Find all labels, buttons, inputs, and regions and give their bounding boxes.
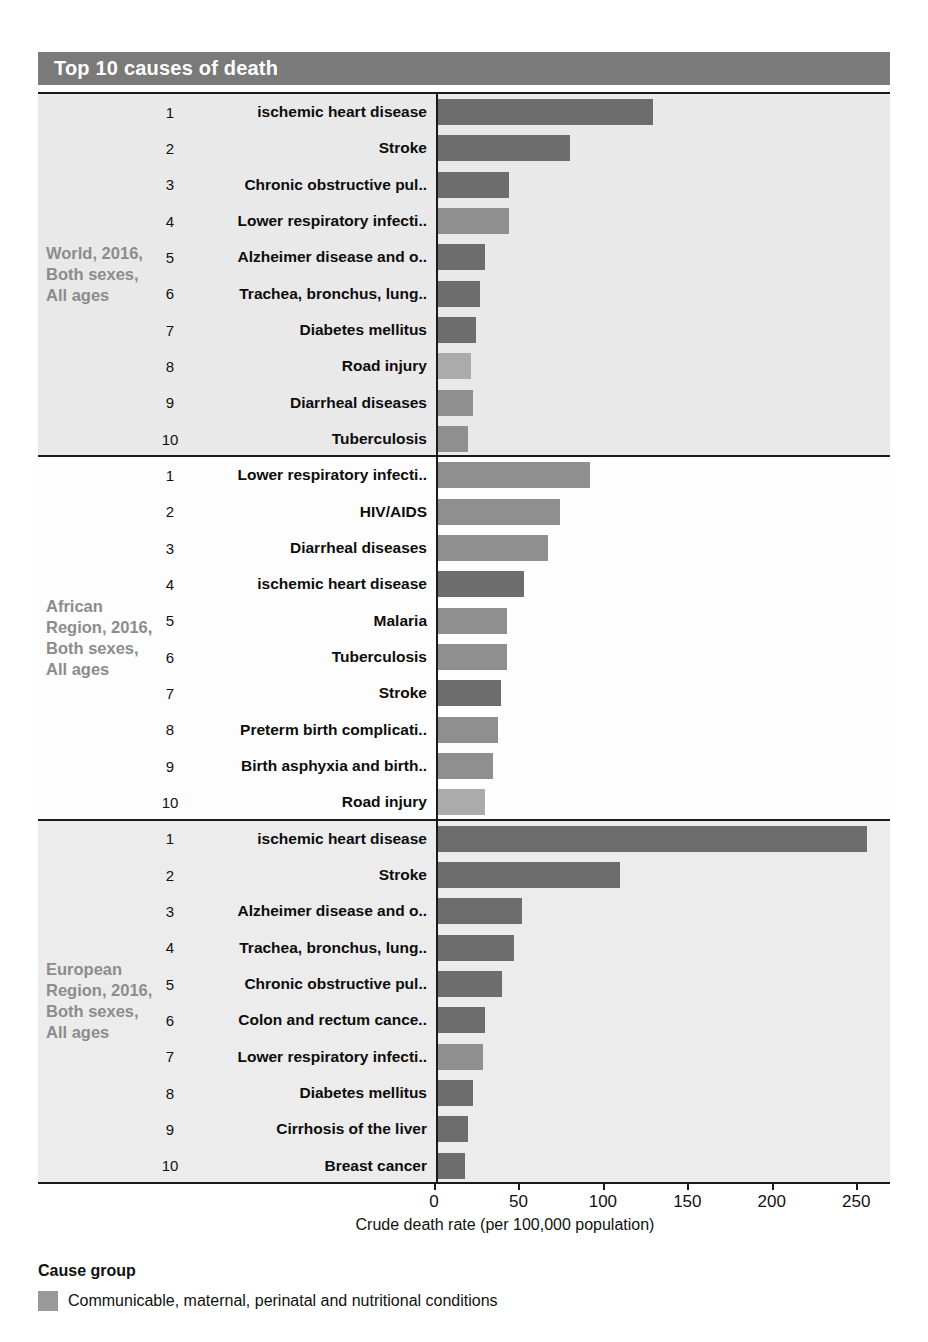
rank-number: 6 xyxy=(154,285,186,302)
chart-row[interactable]: 4Lower respiratory infecti.. xyxy=(154,203,890,239)
rank-number: 1 xyxy=(154,104,186,121)
bar[interactable] xyxy=(438,935,514,961)
rank-number: 4 xyxy=(154,939,186,956)
rank-number: 4 xyxy=(154,576,186,593)
chart-row[interactable]: 10Road injury xyxy=(154,784,890,820)
rank-number: 7 xyxy=(154,685,186,702)
bar[interactable] xyxy=(438,717,498,743)
bar[interactable] xyxy=(438,1044,483,1070)
chart-row[interactable]: 9Cirrhosis of the liver xyxy=(154,1111,890,1147)
chart-row[interactable]: 8Road injury xyxy=(154,348,890,384)
chart-row[interactable]: 6Tuberculosis xyxy=(154,639,890,675)
bar[interactable] xyxy=(438,208,509,234)
bar-track xyxy=(436,1111,890,1147)
cause-label: Lower respiratory infecti.. xyxy=(186,212,436,230)
bar[interactable] xyxy=(438,1007,485,1033)
cause-label: Trachea, bronchus, lung.. xyxy=(186,285,436,303)
chart-row[interactable]: 1ischemic heart disease xyxy=(154,94,890,130)
bar[interactable] xyxy=(438,535,548,561)
chart-row[interactable]: 3Chronic obstructive pul.. xyxy=(154,167,890,203)
bar[interactable] xyxy=(438,426,468,452)
rank-number: 6 xyxy=(154,649,186,666)
bar[interactable] xyxy=(438,1080,473,1106)
rank-number: 2 xyxy=(154,867,186,884)
bar[interactable] xyxy=(438,826,867,852)
cause-label: Road injury xyxy=(186,357,436,375)
bar[interactable] xyxy=(438,244,485,270)
bar[interactable] xyxy=(438,172,509,198)
bar[interactable] xyxy=(438,789,485,815)
chart-row[interactable]: 3Alzheimer disease and o.. xyxy=(154,893,890,929)
bar[interactable] xyxy=(438,499,560,525)
x-axis-title-text: Crude death rate (per 100,000 population… xyxy=(356,1216,655,1234)
bar[interactable] xyxy=(438,571,524,597)
bar[interactable] xyxy=(438,353,471,379)
chart-row[interactable]: 5Chronic obstructive pul.. xyxy=(154,966,890,1002)
x-axis: 050100150200250 xyxy=(434,1182,890,1184)
bar[interactable] xyxy=(438,317,476,343)
bar-track xyxy=(436,712,890,748)
bar[interactable] xyxy=(438,135,570,161)
cause-label: Alzheimer disease and o.. xyxy=(186,902,436,920)
bar-track xyxy=(436,348,890,384)
chart-row[interactable]: 7Diabetes mellitus xyxy=(154,312,890,348)
chart-row[interactable]: 8Diabetes mellitus xyxy=(154,1075,890,1111)
axis-tick-label: 200 xyxy=(758,1192,786,1212)
bar[interactable] xyxy=(438,898,522,924)
chart-row[interactable]: 3Diarrheal diseases xyxy=(154,530,890,566)
cause-label: Cirrhosis of the liver xyxy=(186,1120,436,1138)
cause-label: Tuberculosis xyxy=(186,430,436,448)
axis-tick xyxy=(856,1182,858,1190)
chart-row[interactable]: 7Stroke xyxy=(154,675,890,711)
bar[interactable] xyxy=(438,644,507,670)
cause-label: Preterm birth complicati.. xyxy=(186,721,436,739)
bar-track xyxy=(436,421,890,457)
bar[interactable] xyxy=(438,753,493,779)
bar-track xyxy=(436,276,890,312)
chart-row[interactable]: 2Stroke xyxy=(154,857,890,893)
rank-number: 1 xyxy=(154,467,186,484)
legend-swatch xyxy=(38,1291,58,1311)
legend-item[interactable]: Communicable, maternal, perinatal and nu… xyxy=(38,1291,898,1311)
chart-row[interactable]: 7Lower respiratory infecti.. xyxy=(154,1039,890,1075)
bar[interactable] xyxy=(438,99,653,125)
bar-track xyxy=(436,312,890,348)
cause-label: ischemic heart disease xyxy=(186,103,436,121)
region-label: African Region, 2016, Both sexes, All ag… xyxy=(46,457,154,818)
bar[interactable] xyxy=(438,862,620,888)
rank-number: 10 xyxy=(154,794,186,811)
legend-title: Cause group xyxy=(38,1262,898,1280)
bar[interactable] xyxy=(438,281,480,307)
chart-row[interactable]: 10Tuberculosis xyxy=(154,421,890,457)
bar[interactable] xyxy=(438,1116,468,1142)
axis-line-left xyxy=(380,1182,434,1184)
chart-row[interactable]: 5Malaria xyxy=(154,603,890,639)
bar[interactable] xyxy=(438,1153,465,1179)
bar[interactable] xyxy=(438,390,473,416)
chart-row[interactable]: 2Stroke xyxy=(154,130,890,166)
chart-row[interactable]: 10Breast cancer xyxy=(154,1148,890,1184)
axis-tick-label: 50 xyxy=(509,1192,528,1212)
chart-row[interactable]: 1ischemic heart disease xyxy=(154,821,890,857)
chart-row[interactable]: 4ischemic heart disease xyxy=(154,566,890,602)
chart-row[interactable]: 8Preterm birth complicati.. xyxy=(154,712,890,748)
chart-row[interactable]: 1Lower respiratory infecti.. xyxy=(154,457,890,493)
chart-row[interactable]: 9Birth asphyxia and birth.. xyxy=(154,748,890,784)
rank-number: 10 xyxy=(154,1157,186,1174)
rank-number: 3 xyxy=(154,540,186,557)
chart-row[interactable]: 4Trachea, bronchus, lung.. xyxy=(154,930,890,966)
chart-row[interactable]: 9Diarrheal diseases xyxy=(154,385,890,421)
chart-row[interactable]: 5Alzheimer disease and o.. xyxy=(154,239,890,275)
chart-row[interactable]: 6Colon and rectum cance.. xyxy=(154,1002,890,1038)
axis-tick xyxy=(518,1182,520,1190)
bar[interactable] xyxy=(438,462,590,488)
chart-row[interactable]: 2HIV/AIDS xyxy=(154,494,890,530)
chart-row[interactable]: 6Trachea, bronchus, lung.. xyxy=(154,276,890,312)
bar-track xyxy=(436,966,890,1002)
bar[interactable] xyxy=(438,680,501,706)
region-panel: European Region, 2016, Both sexes, All a… xyxy=(38,821,890,1184)
cause-label: Lower respiratory infecti.. xyxy=(186,1048,436,1066)
bar[interactable] xyxy=(438,971,502,997)
legend-label: Communicable, maternal, perinatal and nu… xyxy=(68,1292,498,1310)
bar[interactable] xyxy=(438,608,507,634)
